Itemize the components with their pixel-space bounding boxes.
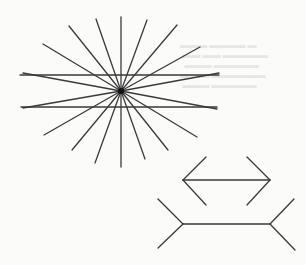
muller-lyer-arrowheads-inward bbox=[183, 157, 270, 205]
muller-lyer-fin bbox=[270, 199, 294, 224]
hering-illusion bbox=[20, 17, 219, 167]
radiating-ray bbox=[72, 91, 121, 150]
radiating-ray bbox=[121, 91, 145, 159]
muller-lyer-arrowheads-outward bbox=[158, 199, 295, 250]
muller-lyer-fin bbox=[247, 180, 270, 205]
muller-lyer-fin bbox=[247, 157, 270, 180]
radiating-ray bbox=[69, 26, 121, 91]
radiating-ray bbox=[121, 25, 177, 91]
illusion-figure bbox=[0, 0, 306, 265]
radiating-ray bbox=[121, 20, 147, 91]
muller-lyer-fin bbox=[158, 224, 183, 248]
muller-lyer-fin bbox=[183, 157, 206, 180]
vanishing-point-dot bbox=[118, 88, 124, 94]
radiating-ray bbox=[121, 73, 219, 91]
muller-lyer-fin bbox=[183, 180, 206, 205]
muller-lyer-fin bbox=[270, 224, 295, 250]
radiating-ray bbox=[95, 91, 121, 163]
radiating-ray bbox=[121, 91, 168, 150]
radiating-ray bbox=[96, 19, 121, 91]
muller-lyer-fin bbox=[158, 199, 183, 224]
